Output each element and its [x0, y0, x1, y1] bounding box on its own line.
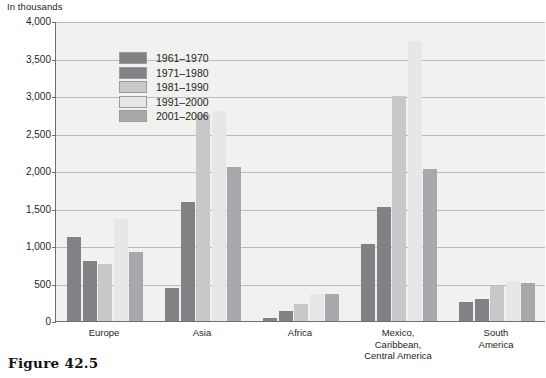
bar: [325, 294, 339, 321]
figure-42-5: In thousands 05001,0001,5002,0002,5003,0…: [0, 0, 546, 378]
bar: [459, 302, 473, 321]
bar: [408, 41, 422, 322]
legend-label: 1971–1980: [156, 68, 209, 79]
bar: [361, 244, 375, 321]
y-axis-tick-label: 1,000: [26, 242, 51, 252]
bar: [181, 202, 195, 321]
bar: [521, 283, 535, 321]
legend-swatch: [119, 110, 147, 122]
bar: [263, 318, 277, 321]
y-axis-tick-label: 3,000: [26, 92, 51, 102]
bar: [310, 294, 324, 321]
x-axis-category-label: Europe: [55, 327, 153, 339]
y-axis-tick-label: 0: [45, 317, 51, 327]
y-axis-tick-mark: [52, 322, 56, 323]
chart-plot-area: 05001,0001,5002,0002,5003,0003,5004,000 …: [55, 22, 545, 322]
bar: [490, 286, 504, 321]
bar: [294, 304, 308, 321]
bar-group: [448, 22, 546, 321]
bar: [196, 114, 210, 321]
figure-caption: Figure 42.5: [8, 355, 99, 371]
y-axis-unit-label: In thousands: [7, 1, 63, 12]
legend-swatch: [119, 67, 147, 79]
y-axis-tick-label: 2,000: [26, 167, 51, 177]
y-axis-tick-label: 500: [34, 280, 51, 290]
bar: [165, 288, 179, 321]
legend-label: 2001–2006: [156, 111, 209, 122]
legend-item: 1961–1970: [119, 52, 209, 65]
legend-swatch: [119, 96, 147, 108]
legend-swatch: [119, 81, 147, 93]
bar: [279, 311, 293, 321]
bar: [83, 261, 97, 321]
bar-group: [350, 22, 448, 321]
bar: [98, 264, 112, 321]
bar: [212, 111, 226, 321]
bar: [114, 219, 128, 321]
bar: [392, 96, 406, 321]
legend-label: 1991–2000: [156, 97, 209, 108]
y-axis-tick-label: 2,500: [26, 130, 51, 140]
legend-item: 1971–1980: [119, 67, 209, 80]
x-axis-category-label: South America: [447, 327, 545, 350]
bar-group: [252, 22, 350, 321]
bar: [129, 252, 143, 321]
legend-item: 2001–2006: [119, 110, 209, 123]
legend-label: 1961–1970: [156, 53, 209, 64]
bar: [475, 299, 489, 321]
bar: [423, 169, 437, 321]
chart-legend: 1961–19701971–19801981–19901991–20002001…: [119, 52, 209, 123]
y-axis-tick-label: 4,000: [26, 17, 51, 27]
y-axis-tick-label: 1,500: [26, 205, 51, 215]
x-axis-category-label: Africa: [251, 327, 349, 339]
legend-item: 1991–2000: [119, 96, 209, 109]
legend-swatch: [119, 52, 147, 64]
y-axis-tick-label: 3,500: [26, 55, 51, 65]
legend-item: 1981–1990: [119, 81, 209, 94]
bar: [506, 281, 520, 321]
legend-label: 1981–1990: [156, 82, 209, 93]
x-axis-category-label: Asia: [153, 327, 251, 339]
x-axis-category-label: Mexico, Caribbean, Central America: [349, 327, 447, 362]
bar: [227, 167, 241, 322]
bar: [377, 207, 391, 321]
bar: [67, 237, 81, 321]
